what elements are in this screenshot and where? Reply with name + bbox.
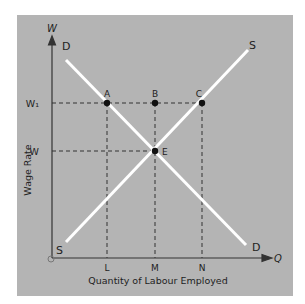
label-b: B — [152, 89, 158, 99]
point-b — [152, 100, 158, 106]
x-axis-symbol: Q — [274, 253, 282, 264]
demand-label-bottom: D — [252, 241, 260, 254]
x-axis-title: Quantity of Labour Employed — [88, 275, 227, 286]
tick-w1: W₁ — [26, 98, 39, 109]
label-e: E — [162, 147, 168, 157]
supply-curve — [66, 50, 248, 242]
point-a — [104, 100, 110, 106]
tick-l: L — [104, 263, 109, 273]
origin-marker-icon — [48, 256, 54, 262]
point-e — [152, 148, 158, 154]
supply-label-top: S — [249, 39, 256, 52]
y-axis-title: Wage Rate — [22, 144, 33, 195]
labour-market-chart: W Q W₁ W L M N A B C E D D S S Wage Rate… — [0, 0, 305, 304]
y-axis-symbol: W — [47, 23, 58, 34]
label-c: C — [196, 89, 202, 99]
supply-label-bottom: S — [56, 244, 63, 257]
point-c — [199, 100, 205, 106]
axes — [49, 36, 273, 262]
label-a: A — [104, 89, 111, 99]
y-axis-arrow-icon — [49, 36, 56, 45]
tick-m: M — [151, 263, 159, 273]
x-axis-arrow-icon — [262, 255, 272, 262]
demand-label-top: D — [62, 40, 70, 53]
tick-n: N — [199, 263, 206, 273]
